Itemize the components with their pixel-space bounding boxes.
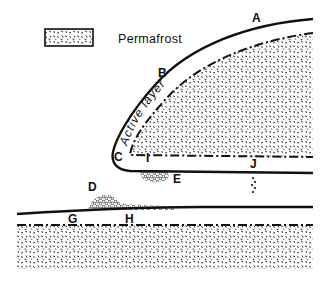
drip-J	[251, 177, 256, 193]
label-E: E	[173, 173, 181, 185]
label-B: B	[158, 67, 167, 79]
lower-permafrost-body	[17, 225, 313, 269]
label-H: H	[125, 213, 134, 225]
label-I: I	[146, 152, 149, 164]
label-A: A	[252, 12, 261, 24]
label-C: C	[114, 151, 123, 163]
lower-ground-surface	[17, 207, 313, 214]
label-G: G	[68, 213, 77, 225]
legend-permafrost-symbol	[45, 29, 93, 46]
label-D: D	[88, 181, 97, 193]
legend-label: Permafrost	[118, 33, 182, 46]
label-J: J	[250, 158, 257, 170]
deposit-E	[140, 172, 169, 182]
